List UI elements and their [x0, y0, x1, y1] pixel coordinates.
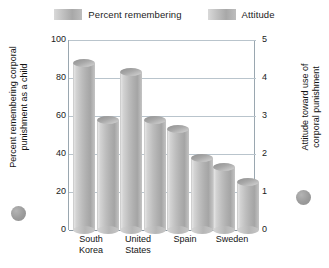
gridline [69, 40, 256, 41]
bar [144, 120, 166, 230]
legend-swatch-attitude [208, 9, 236, 20]
y-tick-label-right: 2 [262, 149, 286, 158]
gridline [69, 78, 256, 79]
y-tick-label-right: 5 [262, 35, 286, 44]
y-tick-label-right: 0 [262, 225, 286, 234]
legend-item-attitude: Attitude [208, 9, 275, 20]
bar-top-ellipse [237, 178, 259, 186]
legend-item-percent-remembering: Percent remembering [54, 9, 181, 20]
plot-area [68, 40, 255, 230]
bar [97, 120, 119, 230]
legend-swatch-percent-remembering [54, 9, 82, 20]
bar [213, 167, 235, 230]
legend-label-percent-remembering: Percent remembering [88, 9, 181, 20]
y-tick-label-left: 40 [40, 149, 66, 158]
bar-base-ellipse [167, 226, 189, 234]
bar-top-ellipse [167, 125, 189, 133]
y-tick-label-right: 1 [262, 187, 286, 196]
bar [237, 182, 259, 230]
left-axis-marker-dot [11, 206, 26, 221]
bar-base-ellipse [73, 226, 95, 234]
chart-container: Percent remembering Attitude Percent rem… [0, 0, 329, 268]
y-tick-label-right: 4 [262, 73, 286, 82]
y-tick-label-right: 3 [262, 111, 286, 120]
y-axis-title-right: Attitude toward use of corporal punishme… [300, 32, 322, 182]
y-axis-title-left: Percent remembering corporal punishment … [8, 32, 30, 182]
bar-base-ellipse [120, 226, 142, 234]
bar-top-ellipse [213, 163, 235, 171]
y-tick-label-left: 80 [40, 73, 66, 82]
right-axis-marker-dot [296, 190, 311, 205]
y-tick-label-left: 20 [40, 187, 66, 196]
bar-top-ellipse [144, 116, 166, 124]
bar [191, 158, 213, 230]
bar [167, 129, 189, 230]
x-axis-category-label: Sweden [201, 234, 263, 245]
bar-top-ellipse [191, 154, 213, 162]
bar-top-ellipse [97, 116, 119, 124]
bar-base-ellipse [237, 226, 259, 234]
bar-base-ellipse [97, 226, 119, 234]
chart-legend: Percent remembering Attitude [0, 6, 329, 22]
y-tick-label-left: 60 [40, 111, 66, 120]
bar [120, 72, 142, 230]
bar-base-ellipse [191, 226, 213, 234]
y-tick-label-left: 0 [40, 225, 66, 234]
bar [73, 63, 95, 230]
y-tick-label-left: 100 [40, 35, 66, 44]
bar-top-ellipse [120, 68, 142, 76]
bar-top-ellipse [73, 59, 95, 67]
legend-label-attitude: Attitude [242, 9, 275, 20]
bar-base-ellipse [213, 226, 235, 234]
bar-base-ellipse [144, 226, 166, 234]
